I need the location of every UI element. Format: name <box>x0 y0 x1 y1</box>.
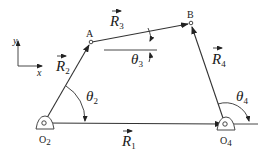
r3-label: R3 <box>109 11 124 31</box>
theta2-label: θ2 <box>86 88 98 106</box>
theta3-arc-top <box>148 28 151 41</box>
four-bar-linkage-diagram: y x A B O2 O4 R1 R2 R3 <box>0 0 270 158</box>
o2-ground-pivot <box>36 116 54 129</box>
theta4-label: θ4 <box>236 88 248 106</box>
joint-a <box>89 40 93 44</box>
svg-text:R2: R2 <box>55 58 70 76</box>
joint-b <box>189 21 193 25</box>
point-a-label: A <box>86 28 94 39</box>
svg-text:R3: R3 <box>109 13 124 31</box>
svg-text:R4: R4 <box>211 51 226 69</box>
r2-label: R2 <box>55 56 70 76</box>
vector-r1 <box>44 123 222 124</box>
r4-label: R4 <box>211 48 226 69</box>
x-axis-label: x <box>36 67 42 78</box>
theta3-arc-bottom <box>149 53 150 62</box>
point-o2-label: O2 <box>39 134 51 147</box>
vector-r4 <box>192 27 225 124</box>
svg-text:R1: R1 <box>121 133 136 151</box>
r1-label: R1 <box>121 131 136 151</box>
vector-r3 <box>92 24 188 42</box>
point-b-label: B <box>187 9 194 20</box>
theta2-arc <box>66 86 85 121</box>
theta3-label: θ3 <box>131 51 143 69</box>
coordinate-axes: y x <box>12 35 42 78</box>
o4-ground-pivot <box>217 117 235 130</box>
point-o4-label: O4 <box>220 135 232 148</box>
y-axis-label: y <box>12 35 18 46</box>
vector-r2 <box>44 45 89 123</box>
